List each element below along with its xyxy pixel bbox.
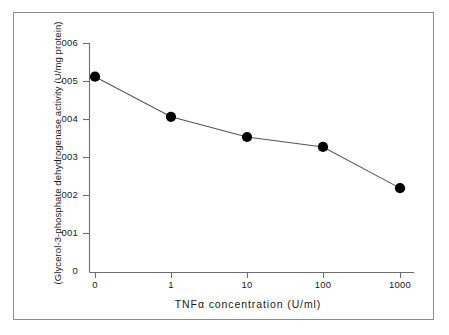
x-tick-label-1: 1	[148, 279, 194, 290]
x-tick-label-10: 10	[224, 279, 270, 290]
data-point-marker	[166, 112, 176, 122]
data-point-marker	[318, 142, 328, 152]
x-tick-label-1000: 1000	[377, 279, 423, 290]
x-axis-title: TNFα concentration (U/ml)	[95, 298, 401, 310]
x-tick-label-100: 100	[300, 279, 346, 290]
y-axis-title: (Glycerol-3-phosphate dehydrogenase acti…	[52, 35, 63, 285]
data-point-marker	[90, 72, 100, 82]
data-markers	[90, 72, 405, 194]
chart-plot-area: 006 005 004 003 002 001 0 0 1 10 100 100…	[0, 0, 449, 335]
data-point-marker	[242, 132, 252, 142]
x-tick-label-0: 0	[72, 279, 118, 290]
figure-root: 006 005 004 003 002 001 0 0 1 10 100 100…	[0, 0, 449, 335]
data-point-marker	[395, 183, 405, 193]
